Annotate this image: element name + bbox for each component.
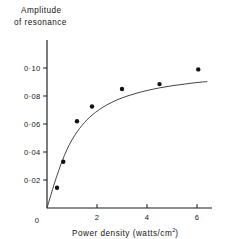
- y-axis-tick-label: 0·06: [24, 120, 40, 129]
- x-axis-label-main: Power density (watts/cm: [72, 229, 172, 238]
- y-axis-tick-label: 0·04: [24, 148, 40, 157]
- fit-curve: [47, 82, 207, 208]
- data-point: [157, 82, 161, 86]
- data-point: [61, 160, 65, 164]
- y-axis-tick-label: 0·02: [24, 176, 40, 185]
- x-axis-tick-label: 6: [195, 213, 200, 222]
- x-axis-label-close: ): [175, 229, 178, 238]
- axes: [47, 40, 212, 208]
- data-point: [120, 87, 124, 91]
- chart-figure: Amplitude of resonance 00·020·040·060·08…: [0, 0, 228, 239]
- data-point: [90, 104, 94, 108]
- y-axis-tick-label: 0·10: [24, 64, 40, 73]
- data-points: [55, 67, 201, 190]
- data-point: [75, 119, 79, 123]
- x-axis-tick-label: 4: [145, 213, 150, 222]
- x-axis-tick-label: 2: [95, 213, 100, 222]
- data-point: [55, 186, 59, 190]
- data-point: [196, 67, 200, 71]
- y-axis-tick-label: 0: [35, 216, 40, 225]
- y-axis-tick-label: 0·08: [24, 92, 40, 101]
- x-axis-label: Power density (watts/cm2): [72, 227, 179, 238]
